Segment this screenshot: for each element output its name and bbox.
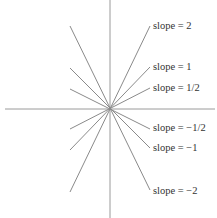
label-slope-neg-1: slope = −1: [153, 142, 198, 154]
slope-diagram: slope = 2 slope = 1 slope = 1/2 slope = …: [0, 0, 217, 218]
label-slope-neg-2: slope = −2: [153, 185, 198, 197]
label-slope-2: slope = 2: [153, 20, 192, 32]
label-slope-half: slope = 1/2: [153, 82, 200, 94]
label-slope-1: slope = 1: [153, 61, 192, 73]
label-slope-neg-half: slope = −1/2: [153, 122, 206, 134]
